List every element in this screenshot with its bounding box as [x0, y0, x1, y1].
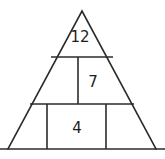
- pyramid-diagram-svg: [0, 0, 165, 159]
- cell-label-middle-right: 7: [88, 75, 98, 90]
- pyramid-figure: 12 7 4: [0, 0, 165, 159]
- cell-label-bottom-center: 4: [72, 121, 82, 136]
- cell-label-apex: 12: [70, 30, 89, 45]
